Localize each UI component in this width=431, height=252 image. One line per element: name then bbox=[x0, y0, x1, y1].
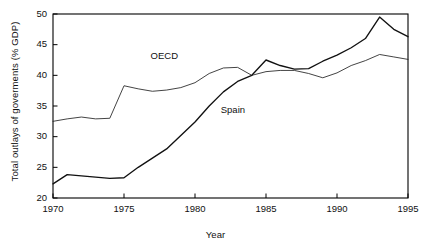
x-tick-label: 1980 bbox=[175, 203, 215, 214]
y-tick-label: 35 bbox=[19, 100, 47, 111]
data-series-group bbox=[53, 17, 408, 184]
x-axis-title: Year bbox=[0, 229, 431, 240]
y-tick-marks bbox=[53, 14, 58, 198]
x-tick-label: 1975 bbox=[104, 203, 144, 214]
plot-area bbox=[0, 0, 431, 252]
y-tick-label: 20 bbox=[19, 192, 47, 203]
y-tick-label: 25 bbox=[19, 161, 47, 172]
y-tick-label: 30 bbox=[19, 130, 47, 141]
y-tick-label: 40 bbox=[19, 69, 47, 80]
y-tick-label: 50 bbox=[19, 8, 47, 19]
series-label-spain: Spain bbox=[221, 104, 245, 115]
y-axis-title: Total outlays of goverments (% GDP) bbox=[9, 2, 20, 202]
y-tick-label: 45 bbox=[19, 38, 47, 49]
chart-figure: Total outlays of goverments (% GDP) Year… bbox=[0, 0, 431, 252]
x-tick-label: 1990 bbox=[317, 203, 357, 214]
x-tick-label: 1970 bbox=[33, 203, 73, 214]
x-tick-marks bbox=[53, 194, 408, 199]
series-label-oecd: OECD bbox=[151, 50, 178, 61]
x-tick-label: 1985 bbox=[246, 203, 286, 214]
x-tick-label: 1995 bbox=[388, 203, 428, 214]
